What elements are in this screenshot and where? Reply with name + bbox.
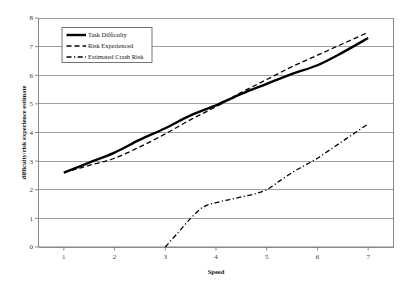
y-axis-title-group: difficulty/risk experience estimate <box>20 85 27 179</box>
y-tick-label-2: 2 <box>30 186 34 194</box>
y-axis-title: difficulty/risk experience estimate <box>20 85 27 179</box>
x-tick-label-7: 7 <box>366 253 370 261</box>
line-chart: 012345678 1234567 difficulty/risk experi… <box>0 0 409 286</box>
x-tick-label-1: 1 <box>62 253 66 261</box>
y-tick-label-8: 8 <box>30 14 34 22</box>
x-tick-group: 1234567 <box>62 247 370 261</box>
x-tick-label-2: 2 <box>113 253 117 261</box>
chart-legend: Task DifficultyRisk ExperiencedEstimated… <box>62 28 152 63</box>
y-tick-label-0: 0 <box>30 243 34 251</box>
y-tick-label-1: 1 <box>30 215 34 223</box>
y-tick-group: 012345678 <box>30 14 39 251</box>
y-tick-label-6: 6 <box>30 72 34 80</box>
x-axis-title-group: Speed <box>208 268 225 275</box>
y-axis: 012345678 <box>30 14 39 251</box>
x-axis: 1234567 <box>39 247 394 261</box>
legend-label-1: Risk Experienced <box>88 42 134 49</box>
x-tick-label-4: 4 <box>214 253 218 261</box>
x-tick-label-3: 3 <box>164 253 168 261</box>
x-tick-label-6: 6 <box>316 253 320 261</box>
x-axis-title: Speed <box>208 268 225 275</box>
legend-label-0: Task Difficulty <box>88 31 127 38</box>
y-tick-label-7: 7 <box>30 43 34 51</box>
y-tick-label-3: 3 <box>30 158 34 166</box>
y-tick-label-5: 5 <box>30 100 34 108</box>
x-tick-label-5: 5 <box>265 253 269 261</box>
series-line-2 <box>165 124 368 247</box>
chart-container: 012345678 1234567 difficulty/risk experi… <box>0 0 409 286</box>
series-group <box>64 32 368 247</box>
y-tick-label-4: 4 <box>30 129 34 137</box>
legend-label-2: Estimated Crash Risk <box>88 53 144 60</box>
